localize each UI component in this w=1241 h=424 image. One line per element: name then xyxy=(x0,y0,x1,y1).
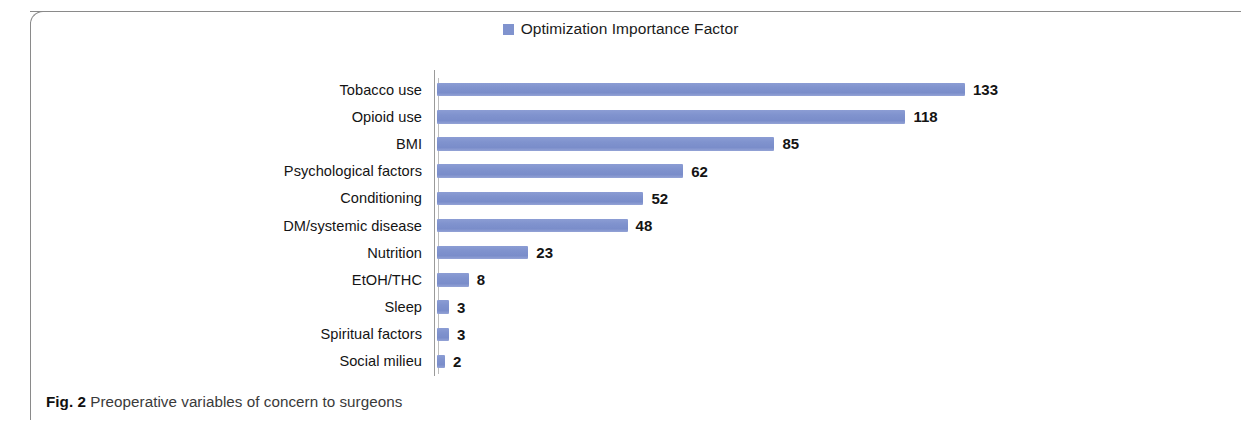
bar-row: Tobacco use133 xyxy=(0,76,1241,103)
bar xyxy=(437,246,528,260)
bar-chart: Optimization Importance Factor Tobacco u… xyxy=(0,0,1241,380)
plot-area: Tobacco use133Opioid use118BMI85Psycholo… xyxy=(0,76,1241,375)
legend-label: Optimization Importance Factor xyxy=(521,20,739,38)
bar-value-label: 62 xyxy=(691,163,708,180)
bar xyxy=(437,83,965,97)
bar xyxy=(437,110,905,124)
figure-caption-text: Preoperative variables of concern to sur… xyxy=(90,393,402,410)
bar-value-label: 48 xyxy=(636,217,653,234)
figure-caption-tag: Fig. 2 xyxy=(46,393,86,410)
bar-and-value: 52 xyxy=(437,190,668,207)
bar-row: Sleep3 xyxy=(0,294,1241,321)
chart-legend: Optimization Importance Factor xyxy=(0,20,1241,38)
bar-value-label: 3 xyxy=(457,299,465,316)
bar-category-label: EtOH/THC xyxy=(22,272,422,288)
bar-category-label: Tobacco use xyxy=(22,82,422,98)
bar-category-label: Spiritual factors xyxy=(22,326,422,342)
bar-category-label: Psychological factors xyxy=(22,163,422,179)
bar-row: Spiritual factors3 xyxy=(0,321,1241,348)
bar-and-value: 8 xyxy=(437,271,485,288)
bar xyxy=(437,137,774,151)
bar-and-value: 118 xyxy=(437,108,938,125)
bar-category-label: Nutrition xyxy=(22,245,422,261)
bar-row: Social milieu2 xyxy=(0,348,1241,375)
bar-category-label: DM/systemic disease xyxy=(22,218,422,234)
bar-category-label: Opioid use xyxy=(22,109,422,125)
bar-category-label: Conditioning xyxy=(22,190,422,206)
bar xyxy=(437,192,643,206)
bar-row: BMI85 xyxy=(0,130,1241,157)
bar-value-label: 52 xyxy=(651,190,668,207)
bar-value-label: 85 xyxy=(782,135,799,152)
bar-category-label: Sleep xyxy=(22,299,422,315)
legend-square-icon xyxy=(503,24,514,35)
bar-value-label: 3 xyxy=(457,326,465,343)
bar-value-label: 8 xyxy=(477,271,485,288)
bar xyxy=(437,328,449,342)
bar-value-label: 23 xyxy=(536,244,553,261)
bar-and-value: 23 xyxy=(437,244,553,261)
bar-and-value: 2 xyxy=(437,353,461,370)
bar-row: DM/systemic disease48 xyxy=(0,212,1241,239)
bar-and-value: 3 xyxy=(437,299,465,316)
figure-caption: Fig. 2 Preoperative variables of concern… xyxy=(46,393,402,410)
bar xyxy=(437,300,449,314)
bar xyxy=(437,164,683,178)
bar-and-value: 62 xyxy=(437,163,708,180)
bar-and-value: 133 xyxy=(437,81,998,98)
bar-and-value: 3 xyxy=(437,326,465,343)
bar-row: Opioid use118 xyxy=(0,103,1241,130)
bar-category-label: BMI xyxy=(22,136,422,152)
bar-row: Psychological factors62 xyxy=(0,158,1241,185)
bar-row: Conditioning52 xyxy=(0,185,1241,212)
bar-value-label: 2 xyxy=(453,353,461,370)
bar xyxy=(437,355,445,369)
bar-value-label: 133 xyxy=(973,81,998,98)
bar-row: EtOH/THC8 xyxy=(0,266,1241,293)
bar-row: Nutrition23 xyxy=(0,239,1241,266)
bar-value-label: 118 xyxy=(913,108,937,125)
bar-category-label: Social milieu xyxy=(22,353,422,369)
bar xyxy=(437,219,628,233)
bar-and-value: 85 xyxy=(437,135,799,152)
bar xyxy=(437,273,469,287)
bar-and-value: 48 xyxy=(437,217,652,234)
